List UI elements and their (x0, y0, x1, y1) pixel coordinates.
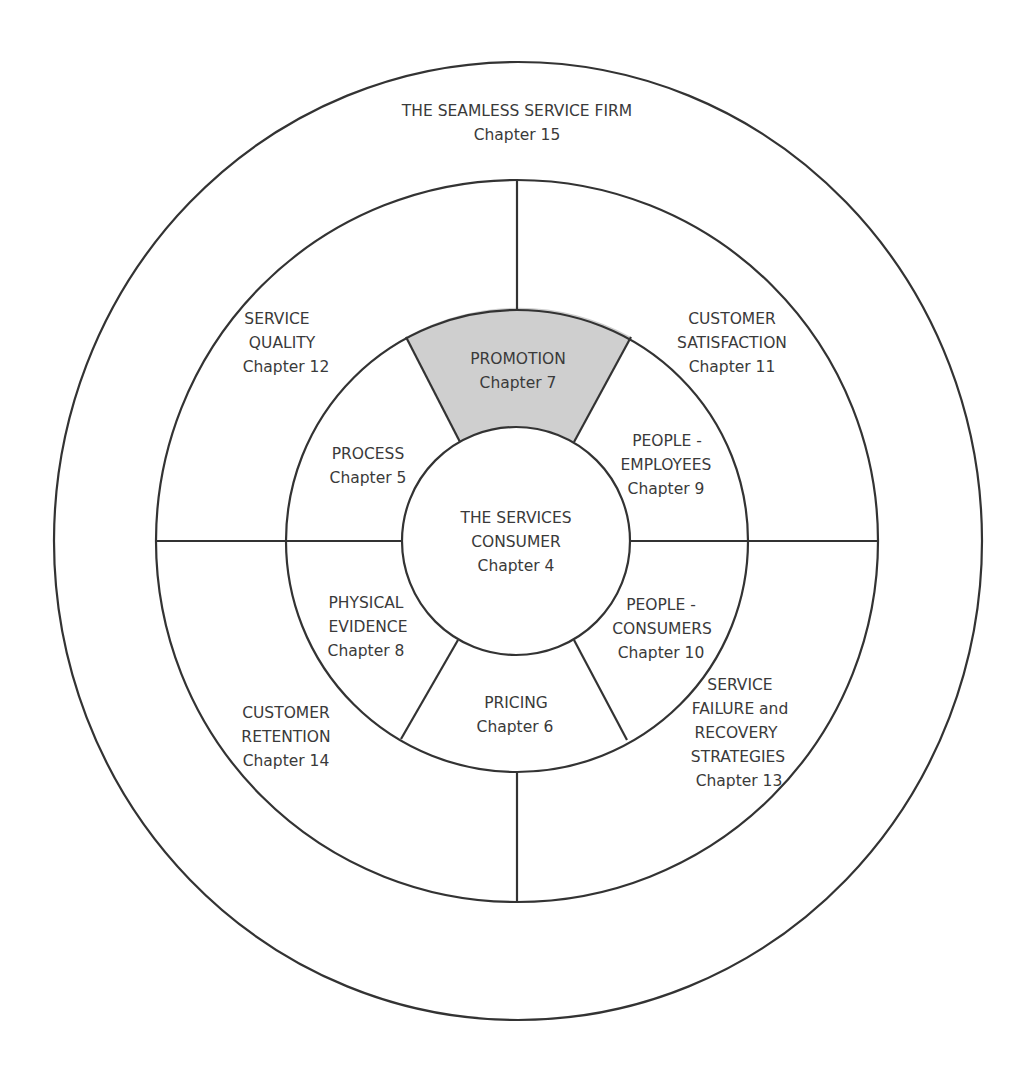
svg-text:EMPLOYEES: EMPLOYEES (621, 456, 712, 474)
svg-text:CONSUMER: CONSUMER (471, 533, 561, 551)
svg-text:CUSTOMER: CUSTOMER (688, 310, 776, 328)
svg-text:RETENTION: RETENTION (241, 728, 330, 746)
svg-text:EVIDENCE: EVIDENCE (329, 618, 408, 636)
inner-label-physical-evidence: PHYSICAL EVIDENCE Chapter 8 (328, 594, 408, 660)
svg-text:SATISFACTION: SATISFACTION (677, 334, 787, 352)
svg-text:Chapter 11: Chapter 11 (689, 358, 776, 376)
middle-label-customer-retention: CUSTOMER RETENTION Chapter 14 (241, 704, 330, 770)
spoke-lower-left (401, 640, 458, 739)
svg-text:CONSUMERS: CONSUMERS (612, 620, 712, 638)
svg-text:Chapter 4: Chapter 4 (478, 557, 555, 575)
middle-label-customer-satisfaction: CUSTOMER SATISFACTION Chapter 11 (677, 310, 787, 376)
svg-text:Chapter 14: Chapter 14 (243, 752, 330, 770)
svg-text:Chapter 9: Chapter 9 (628, 480, 705, 498)
svg-text:Chapter 5: Chapter 5 (330, 469, 407, 487)
svg-text:Chapter 10: Chapter 10 (618, 644, 705, 662)
svg-text:Chapter 8: Chapter 8 (328, 642, 405, 660)
svg-text:FAILURE and: FAILURE and (692, 700, 789, 718)
service-firm-diagram: THE SEAMLESS SERVICE FIRM Chapter 15 SER… (0, 0, 1030, 1069)
middle-label-service-quality: SERVICE QUALITY Chapter 12 (243, 310, 330, 376)
svg-text:Chapter 12: Chapter 12 (243, 358, 330, 376)
svg-text:QUALITY: QUALITY (249, 334, 316, 352)
svg-text:THE SERVICES: THE SERVICES (459, 509, 571, 527)
svg-text:PROCESS: PROCESS (332, 445, 405, 463)
svg-text:PHYSICAL: PHYSICAL (329, 594, 404, 612)
svg-text:Chapter 7: Chapter 7 (480, 374, 557, 392)
inner-label-people-consumers: PEOPLE - CONSUMERS Chapter 10 (612, 596, 712, 662)
middle-label-service-failure-recovery: SERVICE FAILURE and RECOVERY STRATEGIES … (691, 676, 788, 790)
svg-text:SERVICE: SERVICE (244, 310, 309, 328)
svg-text:STRATEGIES: STRATEGIES (691, 748, 785, 766)
svg-text:Chapter 6: Chapter 6 (477, 718, 554, 736)
inner-label-process: PROCESS Chapter 5 (330, 445, 407, 487)
center-label-services-consumer: THE SERVICES CONSUMER Chapter 4 (459, 509, 571, 575)
svg-text:PRICING: PRICING (484, 694, 548, 712)
svg-text:CUSTOMER: CUSTOMER (242, 704, 330, 722)
svg-text:Chapter 13: Chapter 13 (696, 772, 783, 790)
inner-label-people-employees: PEOPLE - EMPLOYEES Chapter 9 (621, 432, 712, 498)
outer-ring-title: THE SEAMLESS SERVICE FIRM (401, 102, 632, 120)
svg-text:SERVICE: SERVICE (707, 676, 772, 694)
inner-label-pricing: PRICING Chapter 6 (477, 694, 554, 736)
svg-text:PEOPLE -: PEOPLE - (632, 432, 702, 450)
outer-ring-chapter: Chapter 15 (474, 126, 561, 144)
svg-text:PEOPLE -: PEOPLE - (626, 596, 696, 614)
svg-text:RECOVERY: RECOVERY (695, 724, 778, 742)
svg-text:PROMOTION: PROMOTION (470, 350, 566, 368)
